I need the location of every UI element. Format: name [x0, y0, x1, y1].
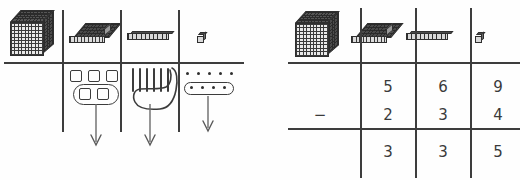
ones-dot [208, 72, 211, 75]
hundred-flat-icon [66, 20, 116, 50]
hundreds-square [88, 70, 100, 82]
hundred-flat-glyph [351, 23, 395, 47]
thousand-cube-glyph [10, 10, 54, 56]
rod-front-face [127, 33, 169, 40]
unit-front-face [475, 36, 482, 43]
ones-dot [197, 72, 200, 75]
thousand-cube-glyph [295, 11, 339, 57]
subtrahend-tens-digit: 3 [431, 108, 455, 123]
hundreds-square [106, 70, 118, 82]
place-value-table: 5 6 9 − 2 3 4 3 3 5 [270, 0, 520, 180]
hundred-flat-glyph [69, 23, 113, 47]
ones-dot [230, 72, 233, 75]
cube-front-face [295, 23, 329, 57]
subtraction-operator: − [310, 108, 330, 123]
table-column-divider-1 [360, 8, 362, 178]
ones-lasso [184, 82, 234, 95]
hundreds-square [70, 70, 82, 82]
table-answer-divider [288, 128, 520, 130]
ten-rod-glyph [406, 31, 452, 42]
worksheet-page: 5 6 9 − 2 3 4 3 3 5 [0, 0, 520, 180]
ten-rod-icon [404, 26, 454, 46]
ten-rod-icon [124, 26, 176, 46]
flat-front-face [69, 36, 105, 43]
difference-hundreds-digit: 3 [376, 145, 400, 160]
thousand-cube-icon [6, 8, 58, 58]
tens-down-arrow-icon [142, 104, 160, 150]
subtrahend-ones-digit: 4 [486, 108, 510, 123]
one-unit-glyph [475, 32, 486, 43]
hundreds-down-arrow-icon [88, 104, 106, 150]
subtrahend-hundreds-digit: 2 [376, 108, 400, 123]
ones-dot [186, 72, 189, 75]
column-divider-2 [120, 10, 122, 132]
ones-dot [219, 72, 222, 75]
minuend-ones-digit: 9 [486, 80, 510, 95]
flat-front-face [351, 36, 387, 43]
table-column-divider-3 [470, 8, 472, 178]
ones-down-arrow-icon [200, 96, 218, 138]
table-header-divider [288, 62, 520, 64]
header-divider-line [4, 62, 244, 64]
one-unit-icon [182, 28, 222, 46]
manipulatives-diagram [0, 0, 250, 180]
cube-front-face [10, 22, 44, 56]
thousand-cube-icon [290, 8, 344, 60]
difference-tens-digit: 3 [431, 145, 455, 160]
hundreds-lasso [73, 84, 119, 105]
minuend-tens-digit: 6 [431, 80, 455, 95]
one-unit-icon [460, 28, 500, 46]
cube-side-face [43, 10, 54, 54]
one-unit-glyph [197, 32, 208, 43]
hundred-flat-icon [348, 20, 398, 50]
difference-ones-digit: 5 [486, 145, 510, 160]
table-column-divider-2 [415, 8, 417, 178]
cube-side-face [328, 11, 339, 55]
rod-front-face [406, 33, 448, 40]
column-divider-1 [62, 10, 64, 132]
unit-front-face [197, 36, 204, 43]
ten-rod-glyph [127, 31, 173, 42]
minuend-hundreds-digit: 5 [376, 80, 400, 95]
